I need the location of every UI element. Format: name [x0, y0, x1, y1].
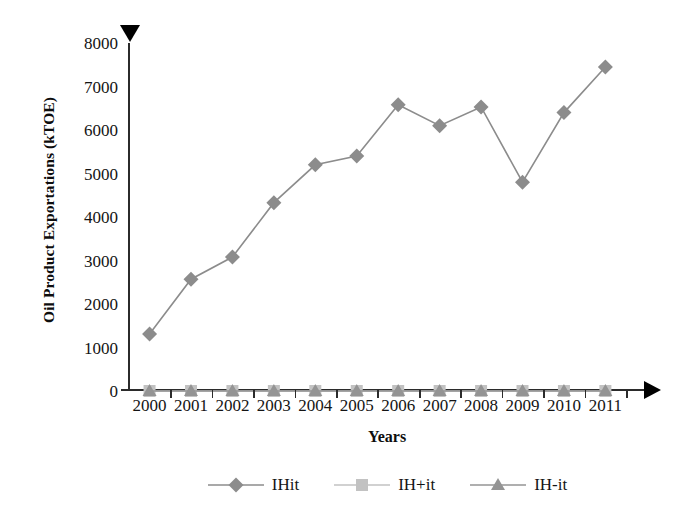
- data-point-marker: [142, 327, 157, 342]
- y-tick-label: 4000: [52, 209, 118, 226]
- x-tick-label: 2003: [257, 396, 291, 416]
- x-tick-label: 2011: [589, 396, 622, 416]
- legend-swatch-triangle-icon: [469, 476, 527, 494]
- x-tick-label: 2009: [506, 396, 540, 416]
- y-tick-label: 8000: [52, 35, 118, 52]
- x-axis-label: Years: [128, 428, 646, 446]
- y-axis-tick-labels: 010002000300040005000600070008000: [52, 0, 118, 516]
- triangle-down-icon: [120, 25, 140, 42]
- x-tick-label: 2010: [547, 396, 581, 416]
- chart-page: Oil Product Exportations (kTOE) 01000200…: [0, 0, 686, 516]
- x-tick-label: 2004: [298, 396, 332, 416]
- triangle-right-icon: [644, 381, 661, 399]
- data-point-marker: [515, 175, 530, 190]
- x-tick-label: 2006: [381, 396, 415, 416]
- x-tick-label: 2001: [174, 396, 208, 416]
- series-ihit: [142, 59, 613, 341]
- x-axis-tick-labels: 2000200120022003200420052006200720082009…: [128, 396, 646, 422]
- legend-swatch-diamond-icon: [207, 476, 265, 494]
- legend-label: IH+it: [398, 475, 435, 495]
- legend-item-ih-it[interactable]: IH+it: [333, 475, 435, 495]
- y-tick-label: 3000: [52, 252, 118, 269]
- x-tick-label: 2002: [215, 396, 249, 416]
- legend-label: IH-it: [534, 475, 567, 495]
- data-point-marker: [356, 479, 368, 491]
- y-tick-label: 7000: [52, 78, 118, 95]
- y-tick-label: 1000: [52, 339, 118, 356]
- x-tick-label: 2000: [133, 396, 167, 416]
- data-point-marker: [491, 478, 505, 490]
- series-plot: [128, 43, 646, 391]
- plot-area: [128, 43, 646, 391]
- legend-item-ihit[interactable]: IHit: [207, 475, 299, 495]
- data-point-marker: [228, 478, 243, 493]
- x-tick-label: 2008: [464, 396, 498, 416]
- data-point-marker: [183, 272, 198, 287]
- legend-swatch-square-icon: [333, 476, 391, 494]
- x-tick-label: 2005: [340, 396, 374, 416]
- data-point-marker: [225, 250, 240, 265]
- data-point-marker: [474, 99, 489, 114]
- y-tick-label: 0: [52, 383, 118, 400]
- x-tick-label: 2007: [423, 396, 457, 416]
- data-point-marker: [432, 118, 447, 133]
- chart-legend: IHitIH+itIH-it: [128, 470, 646, 500]
- legend-label: IHit: [272, 475, 299, 495]
- series-line: [150, 67, 606, 334]
- y-tick-label: 5000: [52, 165, 118, 182]
- y-tick-label: 6000: [52, 122, 118, 139]
- y-tick-label: 2000: [52, 296, 118, 313]
- legend-item-ih-it[interactable]: IH-it: [469, 475, 567, 495]
